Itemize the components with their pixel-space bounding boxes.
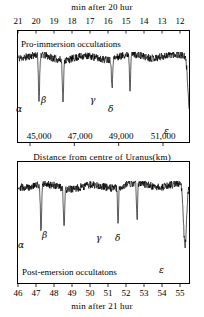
bottom-panel-frame xyxy=(18,162,190,284)
top-panel-frame xyxy=(18,31,190,143)
top-panel-lightcurve xyxy=(18,52,189,109)
distance-axis-ticks xyxy=(30,143,163,147)
plot-canvas xyxy=(0,0,204,317)
bottom-axis-ticks xyxy=(18,284,180,288)
occultation-figure: min after 20 hur 21 20 19 18 17 16 15 14… xyxy=(0,0,204,317)
bottom-panel-lightcurve xyxy=(18,181,189,248)
